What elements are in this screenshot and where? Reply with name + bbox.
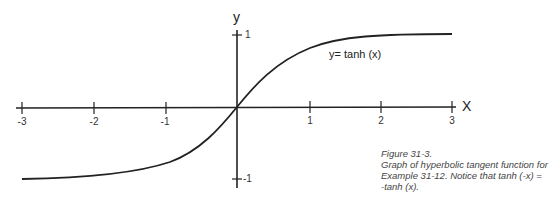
x-tick-label: -3 [18,116,27,127]
caption-line: Graph of hyperbolic tangent function for [381,159,558,170]
x-tick-label: -1 [161,116,170,127]
x-axis-label: X [462,98,472,114]
x-tick-label: -2 [90,116,99,127]
caption-line: Figure 31-3. [381,148,558,159]
x-tick-label: 2 [378,115,384,126]
x-tick-label: 3 [449,115,455,126]
y-tick-label: 1 [245,29,251,40]
x-tick-label: 1 [307,115,313,126]
figure-caption: Figure 31-3. Graph of hyperbolic tangent… [381,148,558,192]
curve-label: y= tanh (x) [329,48,381,60]
y-tick-label: -1 [243,173,252,184]
y-axis-label: y [233,9,240,25]
caption-line: -tanh (x). [381,181,558,192]
caption-line: Example 31-12. Notice that tanh (-x) = [381,170,558,181]
